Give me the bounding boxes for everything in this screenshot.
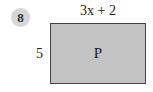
left-side-label: 5 bbox=[36, 46, 43, 62]
problem-number-badge: 8 bbox=[11, 8, 30, 27]
rectangle: P bbox=[50, 23, 146, 84]
top-side-label: 3x + 2 bbox=[50, 3, 146, 19]
problem-number: 8 bbox=[17, 10, 24, 26]
rectangle-label: P bbox=[94, 45, 102, 62]
